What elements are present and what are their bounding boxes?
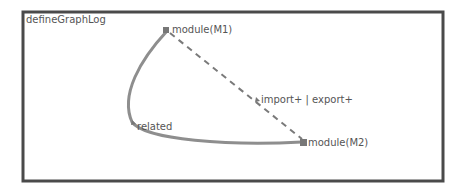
node-m2-label[interactable]: module(M2) — [308, 137, 368, 149]
node-m2-marker[interactable] — [300, 139, 307, 146]
node-m1-marker[interactable] — [163, 27, 169, 33]
diagram-frame — [23, 12, 443, 181]
import-export-edge-label: import+ | export+ — [261, 94, 353, 106]
diagram-title: defineGraphLog — [26, 14, 106, 26]
node-m1-label[interactable]: module(M1) — [172, 24, 232, 36]
related-edge-label: related — [137, 121, 172, 133]
